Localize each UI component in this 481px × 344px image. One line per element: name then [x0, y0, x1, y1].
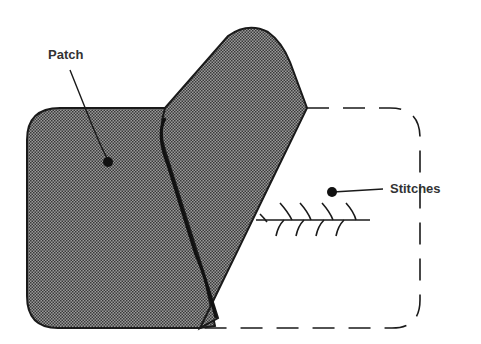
stitches-leader-dot — [327, 187, 337, 197]
patch-leader-dot — [103, 157, 113, 167]
patch-diagram: Patch Stitches — [0, 0, 481, 344]
patch-label: Patch — [48, 47, 83, 62]
stitches-callout: Stitches — [327, 181, 441, 197]
stitch-seam — [256, 203, 370, 236]
stitches-label: Stitches — [390, 181, 441, 196]
stitches-leader-line — [333, 189, 383, 192]
